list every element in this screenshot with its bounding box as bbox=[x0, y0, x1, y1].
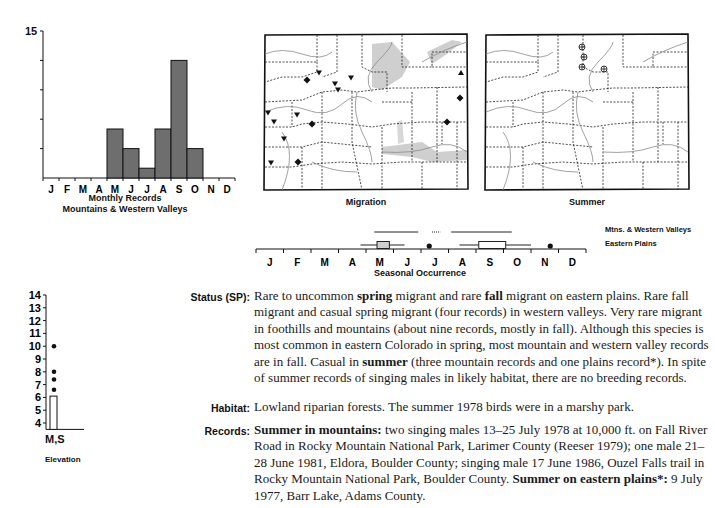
monthly-caption-line2: Mountains & Western Valleys bbox=[30, 204, 220, 214]
svg-text:N: N bbox=[541, 257, 548, 268]
monthly-y-top-label: 15 bbox=[25, 25, 37, 37]
svg-text:10: 10 bbox=[29, 340, 41, 352]
svg-text:A: A bbox=[349, 257, 356, 268]
migration-caption: Migration bbox=[262, 197, 470, 207]
svg-text:S: S bbox=[486, 257, 493, 268]
svg-text:14: 14 bbox=[29, 289, 42, 301]
records-bold-mountains: Summer in mountains: bbox=[254, 422, 382, 437]
svg-text:O: O bbox=[513, 257, 521, 268]
svg-text:D: D bbox=[223, 184, 230, 195]
svg-text:M: M bbox=[376, 257, 384, 268]
records-label: Records: bbox=[170, 425, 250, 437]
status-bold-spring: spring bbox=[357, 288, 392, 303]
elevation-caption: Elevation bbox=[45, 455, 81, 464]
status-text: Rare to uncommon bbox=[254, 288, 357, 303]
svg-text:9: 9 bbox=[35, 353, 41, 365]
svg-text:J: J bbox=[267, 257, 273, 268]
seasonal-occurrence-chart: JFMAMJJASOND Mtns. & Western Valleys Eas… bbox=[250, 215, 715, 280]
status-bold-summer: summer bbox=[362, 354, 408, 369]
svg-text:11: 11 bbox=[29, 327, 41, 339]
svg-text:6: 6 bbox=[35, 391, 41, 403]
seasonal-caption: Seasonal Occurrence bbox=[350, 268, 490, 278]
svg-text:8: 8 bbox=[35, 366, 41, 378]
summer-map: Summer bbox=[483, 32, 691, 192]
colorado-map-summer bbox=[483, 32, 691, 192]
status-text: migrant and rare bbox=[392, 288, 484, 303]
summer-caption: Summer bbox=[483, 197, 691, 207]
svg-text:J: J bbox=[404, 257, 410, 268]
habitat-paragraph: Lowland riparian forests. The summer 197… bbox=[254, 399, 714, 415]
status-bold-fall: fall bbox=[485, 288, 503, 303]
legend-plains: Eastern Plains bbox=[605, 239, 657, 248]
status-label: Status (SP): bbox=[170, 291, 250, 303]
habitat-label: Habitat: bbox=[170, 402, 250, 414]
monthly-records-chart: JFMAMJJASOND 15 Monthly Records Mountain… bbox=[0, 0, 250, 230]
svg-text:5: 5 bbox=[35, 404, 41, 416]
svg-text:M: M bbox=[321, 257, 329, 268]
svg-text:12: 12 bbox=[29, 315, 41, 327]
elevation-x-label: M,S bbox=[45, 433, 65, 445]
svg-text:4: 4 bbox=[35, 417, 42, 429]
svg-text:7: 7 bbox=[35, 379, 41, 391]
svg-text:F: F bbox=[294, 257, 300, 268]
status-paragraph: Rare to uncommon spring migrant and rare… bbox=[254, 288, 714, 386]
migration-map: Migration bbox=[262, 32, 470, 192]
colorado-map-migration bbox=[262, 32, 470, 192]
records-bold-plains: Summer on eastern plains*: bbox=[512, 471, 667, 486]
elevation-svg: 1413121110987654 bbox=[0, 285, 110, 445]
svg-text:J: J bbox=[432, 257, 438, 268]
svg-text:13: 13 bbox=[29, 302, 41, 314]
records-paragraph: Summer in mountains: two singing males 1… bbox=[254, 422, 714, 504]
svg-text:A: A bbox=[459, 257, 466, 268]
svg-text:D: D bbox=[569, 257, 576, 268]
elevation-chart: 1413121110987654 M,S Elevation bbox=[0, 285, 110, 470]
legend-mtns: Mtns. & Western Valleys bbox=[605, 225, 691, 234]
monthly-caption-line1: Monthly Records bbox=[40, 193, 210, 203]
